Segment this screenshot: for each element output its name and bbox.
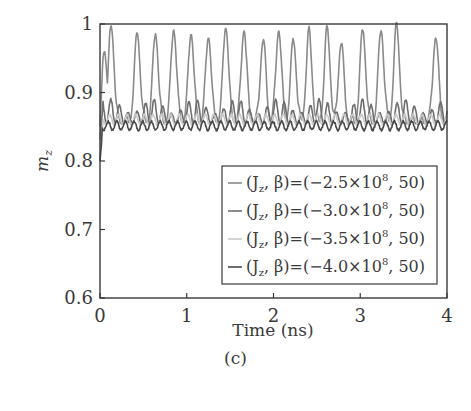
plot-lines (100, 23, 447, 162)
x-tick-label: 3 (355, 305, 366, 326)
y-tick-label: 0.8 (64, 150, 93, 171)
legend-label: (Jz, β)=(−3.5×108, 50) (246, 228, 425, 250)
y-tick-label: 0.6 (64, 287, 93, 308)
legend-item: (Jz, β)=(−4.0×108, 50) (228, 256, 425, 278)
x-tick-label: 1 (181, 305, 192, 326)
legend-label: (Jz, β)=(−4.0×108, 50) (246, 256, 425, 278)
svg-text:mz: mz (32, 150, 55, 172)
legend-item: (Jz, β)=(−3.5×108, 50) (228, 228, 425, 250)
y-tick-label: 0.7 (64, 219, 93, 240)
legend-item: (Jz, β)=(−2.5×108, 50) (228, 172, 425, 194)
legend-item: (Jz, β)=(−3.0×108, 50) (228, 200, 425, 222)
y-axis-title-sub: z (42, 150, 55, 157)
x-tick-label: 4 (441, 305, 452, 326)
y-axis-title-main: m (32, 156, 52, 172)
x-axis-title: Time (ns) (232, 320, 313, 340)
legend: (Jz, β)=(−2.5×108, 50)(Jz, β)=(−3.0×108,… (222, 166, 437, 284)
x-tick-label: 0 (94, 305, 105, 326)
y-axis-title: mz (32, 150, 55, 172)
figure-caption: (c) (0, 348, 471, 368)
legend-label: (Jz, β)=(−2.5×108, 50) (246, 172, 425, 194)
y-tick-label: 1 (82, 13, 93, 34)
legend-label: (Jz, β)=(−3.0×108, 50) (246, 200, 425, 222)
y-tick-label: 0.9 (64, 82, 93, 103)
series-line (100, 120, 447, 161)
series-line (100, 114, 447, 148)
